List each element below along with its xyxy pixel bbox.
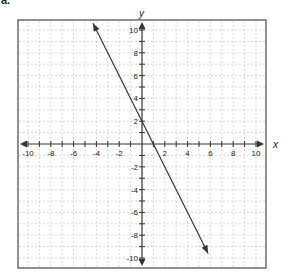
x-tick-label: 8 <box>231 149 236 158</box>
x-tick-label: 4 <box>185 149 190 158</box>
x-tick-label: -4 <box>93 149 101 158</box>
x-tick-label: 6 <box>208 149 213 158</box>
y-tick-label: -6 <box>131 208 139 217</box>
x-tick-label: -8 <box>47 149 55 158</box>
y-tick-label: 8 <box>134 49 139 58</box>
x-axis-label: x <box>272 139 279 150</box>
y-tick-label: -10 <box>126 254 138 263</box>
y-tick-label: -8 <box>131 231 139 240</box>
coordinate-plane: -10-8-6-4-2246810-10-8-6-4-2246810 x y <box>0 0 285 279</box>
x-tick-label: 10 <box>252 149 261 158</box>
y-tick-label: 10 <box>129 26 138 35</box>
x-tick-label: 2 <box>163 149 168 158</box>
y-tick-label: -2 <box>131 163 139 172</box>
x-tick-label: -2 <box>116 149 124 158</box>
y-tick-label: 2 <box>134 117 139 126</box>
y-tick-label: -4 <box>131 186 139 195</box>
x-tick-label: -6 <box>70 149 78 158</box>
y-tick-label: 6 <box>134 72 139 81</box>
y-axis-label: y <box>138 8 145 19</box>
y-tick-label: 4 <box>134 94 139 103</box>
x-tick-label: -10 <box>22 149 34 158</box>
